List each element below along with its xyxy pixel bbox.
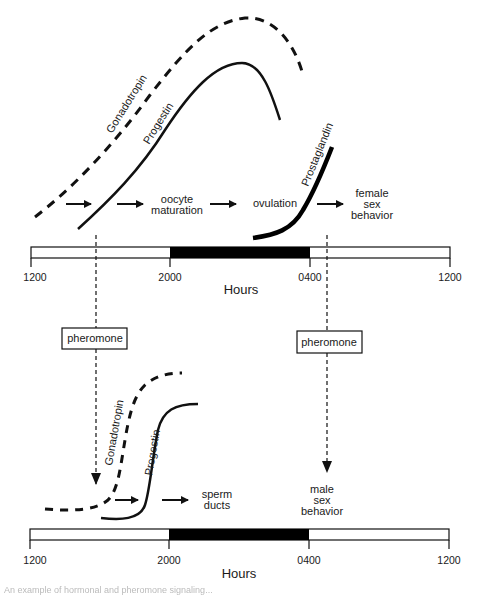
dark-period-bar: [169, 529, 309, 540]
tick-label: 0400: [297, 554, 321, 566]
male-panel: Gonadotropin Progestin sperm ducts male …: [23, 373, 461, 581]
gonadotropin-curve-female: [35, 18, 303, 217]
female-panel: Gonadotropin Progestin Prostaglandin ooc…: [23, 18, 462, 297]
pheromone-label-right: pheromone: [301, 336, 357, 348]
tick-label: 1200: [23, 554, 47, 566]
sperm-ducts-label: ducts: [204, 499, 231, 511]
axis-title: Hours: [222, 566, 257, 581]
female-sex-behavior-label: behavior: [351, 209, 394, 221]
figure-caption: An example of hormonal and pheromone sig…: [4, 585, 474, 595]
axis-title: Hours: [224, 282, 259, 297]
ovulation-label: ovulation: [253, 197, 297, 209]
tick-label: 1200: [437, 554, 461, 566]
tick-label: 1200: [23, 271, 47, 283]
male-sex-behavior-label: behavior: [301, 505, 344, 517]
time-axis-male: 1200 2000 0400 1200 Hours: [23, 529, 461, 581]
tick-label: 1200: [438, 271, 462, 283]
progestin-label-male: Progestin: [142, 428, 162, 476]
tick-label: 2000: [158, 271, 182, 283]
oocyte-maturation-label: maturation: [151, 204, 203, 216]
tick-label: 2000: [157, 554, 181, 566]
hormone-timeline-diagram: Gonadotropin Progestin Prostaglandin ooc…: [0, 0, 480, 595]
tick-label: 0400: [298, 271, 322, 283]
time-axis-female: 1200 2000 0400 1200 Hours: [23, 247, 462, 297]
dark-period-bar: [170, 247, 310, 258]
pheromone-label-left: pheromone: [67, 332, 123, 344]
